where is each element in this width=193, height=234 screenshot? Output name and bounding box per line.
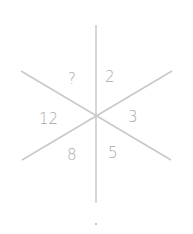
sector-right-value: 3 (128, 108, 138, 126)
dot (95, 223, 97, 225)
puzzle-figure: ? 2 3 5 8 12 (0, 0, 193, 234)
sector-top-left-value: ? (68, 70, 76, 88)
sector-top-right-value: 2 (105, 68, 115, 86)
sector-left-value: 12 (39, 110, 58, 128)
sector-bottom-right-value: 5 (108, 144, 118, 162)
sector-bottom-left-value: 8 (67, 146, 77, 164)
